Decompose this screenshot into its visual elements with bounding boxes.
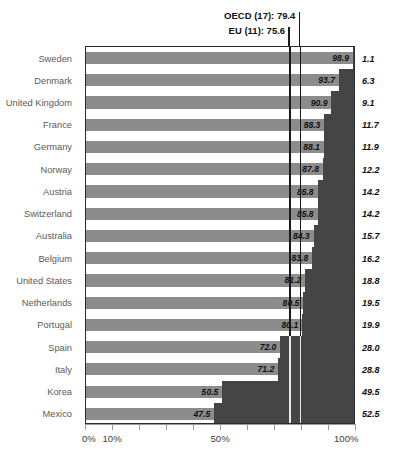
chart-row: 88.3 [86,114,355,136]
bar-value-label: 50.5 [86,386,222,398]
reference-line-segment [300,203,302,225]
reference-line-segment [300,180,302,202]
remainder-block [280,336,355,358]
chart-row: 47.5 [86,403,355,424]
chart-row: 71.2 [86,358,355,380]
complement-value: 52.5 [357,403,397,425]
x-axis-tick [139,424,140,430]
x-axis-tick [193,424,194,430]
reference-line-segment [300,225,302,247]
chart-row: 80.5 [86,292,355,314]
chart-container: OECD (17): 79.4 EU (11): 75.6 SwedenDenm… [0,0,397,465]
x-axis-label: 10% [103,433,122,444]
reference-line-segment [289,269,291,291]
oecd-leader-tick [299,12,301,46]
chart-row: 81.2 [86,269,355,291]
category-label: Austria [0,181,78,203]
complement-value: 14.2 [357,203,397,225]
reference-line-segment [300,314,302,336]
reference-line-segment [300,136,302,158]
x-axis-tick [166,424,167,430]
reference-line-segment [300,269,302,291]
x-axis-label: 50% [211,433,230,444]
category-label: Portugal [0,314,78,336]
bar-value-label: 84.3 [86,230,314,242]
eu-leader-tick [288,27,290,46]
complement-value: 18.8 [357,270,397,292]
category-label: Germany [0,136,78,158]
remainder-block [312,247,355,269]
remainder-block [353,47,355,69]
chart-row: 80.1 [86,314,355,336]
complement-value: 16.2 [357,248,397,270]
bar-value-label: 83.8 [86,252,312,264]
x-axis-tick [328,424,329,430]
complement-value: 11.7 [357,114,397,136]
reference-line-segment [300,114,302,136]
chart-row: 90.9 [86,91,355,113]
category-label: Australia [0,225,78,247]
reference-line-segment [300,292,302,314]
chart-row: 50.5 [86,381,355,403]
category-axis-labels: SwedenDenmarkUnited KingdomFranceGermany… [0,48,78,426]
remainder-block [331,91,355,113]
remainder-block [214,403,355,424]
reference-line-segment [289,47,291,69]
reference-line-segment [289,225,291,247]
category-label: France [0,114,78,136]
chart-row: 93.7 [86,69,355,91]
complement-value: 15.7 [357,225,397,247]
chart-row: 85.8 [86,203,355,225]
eu-reference-label: EU (11): 75.6 [0,25,285,36]
complement-value: 19.5 [357,292,397,314]
remainder-block [305,269,355,291]
category-label: Belgium [0,248,78,270]
reference-line-segment [300,47,302,69]
reference-line-segment [289,247,291,269]
bar-value-label: 47.5 [86,408,214,420]
bar-value-label: 80.5 [86,297,303,309]
bar-value-label: 98.9 [86,52,353,64]
reference-line-segment [289,91,291,113]
x-axis-tick [112,424,113,430]
x-axis-tick [247,424,248,430]
bar-value-label: 85.8 [86,185,318,197]
reference-line-segment [289,114,291,136]
reference-line-annotations: OECD (17): 79.4 EU (11): 75.6 [0,10,397,46]
x-axis-tick [220,424,221,430]
category-label: United States [0,270,78,292]
reference-line-segment [289,180,291,202]
reference-line-segment [289,292,291,314]
category-label: Switzerland [0,203,78,225]
reference-line-segment [300,158,302,180]
category-label: Mexico [0,403,78,425]
bar-value-label: 88.1 [86,141,324,153]
chart-row: 88.1 [86,136,355,158]
remainder-block [318,203,355,225]
remainder-block [314,225,355,247]
chart-row: 72.0 [86,336,355,358]
remainder-block [339,69,355,91]
complement-value: 9.1 [357,92,397,114]
complement-value: 28.8 [357,359,397,381]
complement-value: 19.9 [357,314,397,336]
category-label: Netherlands [0,292,78,314]
bar-value-label: 81.2 [86,274,305,286]
chart-row: 87.8 [86,158,355,180]
remainder-block [303,292,355,314]
reference-line-segment [300,91,302,113]
oecd-reference-label: OECD (17): 79.4 [0,10,295,21]
chart-row: 85.8 [86,180,355,202]
x-axis-tick [274,424,275,430]
bar-value-label: 85.8 [86,208,318,220]
category-label: United Kingdom [0,92,78,114]
complement-value: 28.0 [357,337,397,359]
x-axis-tick [301,424,302,430]
complement-value: 14.2 [357,181,397,203]
reference-line-segment [300,69,302,91]
reference-line-segment [289,203,291,225]
reference-line-segment [289,314,291,336]
bar-value-label: 72.0 [86,341,280,353]
x-axis-label: 0% [82,433,96,444]
complement-value: 1.1 [357,48,397,70]
